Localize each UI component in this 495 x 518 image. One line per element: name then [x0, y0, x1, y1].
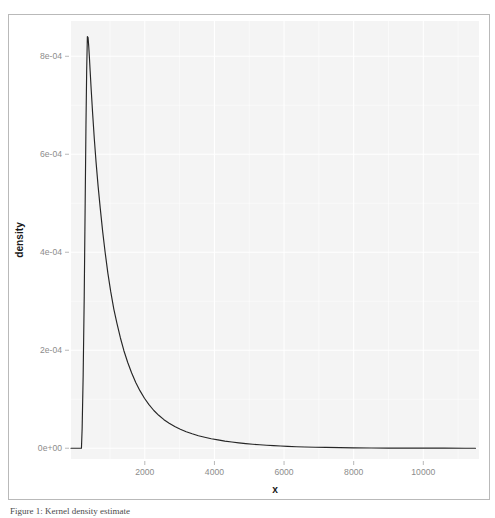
figure-frame: 2000400060008000100000e+002e-044e-046e-0…	[8, 14, 490, 500]
x-tick-label: 10000	[411, 467, 435, 477]
figure-caption: Figure 1: Kernel density estimate	[10, 505, 480, 518]
y-tick-label: 4e-04	[40, 247, 62, 257]
panel-layer	[71, 21, 479, 459]
x-tick-label: 6000	[274, 467, 293, 477]
y-tick-label: 2e-04	[40, 345, 62, 355]
y-tick-label: 8e-04	[40, 51, 62, 61]
x-tick-label: 8000	[344, 467, 363, 477]
x-tick-label: 2000	[135, 467, 154, 477]
y-tick-label: 6e-04	[40, 149, 62, 159]
x-axis-title: x	[272, 484, 278, 495]
y-tick-label: 0e+00	[38, 443, 62, 453]
x-tick-label: 4000	[205, 467, 224, 477]
density-plot: 2000400060008000100000e+002e-044e-046e-0…	[9, 15, 489, 499]
chart-canvas: 2000400060008000100000e+002e-044e-046e-0…	[9, 15, 489, 499]
y-axis-title: density	[14, 222, 25, 258]
plot-panel-background	[71, 21, 479, 459]
